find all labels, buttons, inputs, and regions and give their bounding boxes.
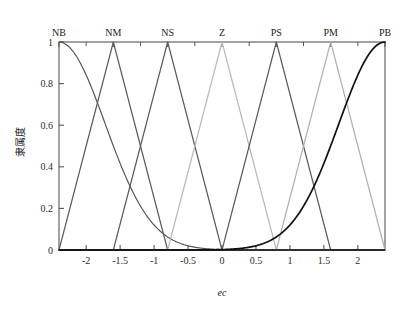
y-tick-label: 0.4 — [41, 161, 54, 172]
chart-background — [0, 0, 407, 314]
top-axis-label-z: Z — [219, 27, 225, 38]
top-axis-label-pb: PB — [379, 27, 392, 38]
y-axis-title: 隶属度 — [14, 127, 26, 157]
membership-function-chart: -2-1.5-1-0.500.511.52 00.20.40.60.81 NBN… — [0, 0, 407, 314]
top-axis-label-ps: PS — [271, 27, 282, 38]
y-tick-label: 0.8 — [41, 78, 54, 89]
y-tick-label: 0.2 — [41, 203, 54, 214]
chart-canvas: -2-1.5-1-0.500.511.52 00.20.40.60.81 NBN… — [0, 0, 407, 314]
x-axis-title: ec — [218, 287, 227, 298]
x-tick-label: 0.5 — [250, 255, 263, 266]
top-axis-label-nm: NM — [105, 27, 121, 38]
y-tick-label: 0 — [48, 245, 53, 256]
x-tick-label: -1 — [150, 255, 158, 266]
x-tick-label: -0.5 — [180, 255, 196, 266]
x-tick-label: 2 — [355, 255, 360, 266]
x-axis-tick-labels: -2-1.5-1-0.500.511.52 — [82, 255, 360, 266]
top-axis-label-nb: NB — [52, 27, 66, 38]
x-tick-label: -2 — [82, 255, 90, 266]
x-tick-label: 1.5 — [318, 255, 331, 266]
x-tick-label: 0 — [220, 255, 225, 266]
x-tick-label: -1.5 — [112, 255, 128, 266]
y-tick-label: 0.6 — [41, 120, 54, 131]
x-tick-label: 1 — [287, 255, 292, 266]
top-axis-label-pm: PM — [323, 27, 338, 38]
y-tick-label: 1 — [48, 37, 53, 48]
top-axis-label-ns: NS — [161, 27, 174, 38]
